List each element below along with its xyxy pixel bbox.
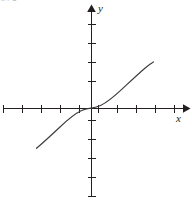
x-axis-label: x: [176, 113, 181, 124]
y-axis-arrow-icon: [87, 5, 96, 13]
coordinate-plane: [0, 0, 192, 200]
graph-figure: 34-2 y x: [0, 0, 192, 200]
x-axis-arrow-icon: [183, 104, 191, 113]
cubic-curve: [37, 62, 154, 148]
y-axis-label: y: [98, 3, 103, 14]
